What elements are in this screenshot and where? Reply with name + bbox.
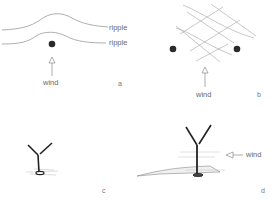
panel-c-drawing: [26, 143, 58, 175]
wind-arrow-head: [226, 152, 233, 158]
wind-arrow-head: [202, 67, 208, 73]
wind-arrow-head: [49, 57, 55, 63]
stem-right-branch: [40, 143, 52, 154]
ripple-label-upper: ripple: [109, 24, 127, 32]
obstacle-dot-left: [170, 46, 177, 53]
panel-b-drawing: [170, 4, 256, 87]
panel-a-drawing: [2, 14, 108, 76]
ripple-line: [176, 26, 220, 62]
ripple-line: [180, 7, 223, 34]
panel-label-d: d: [261, 187, 265, 194]
wind-label-a: wind: [43, 79, 58, 87]
stem-left-branch: [186, 127, 197, 145]
panel-d-drawing: [137, 125, 243, 177]
stem-right-branch: [199, 125, 211, 144]
panel-label-c: c: [102, 187, 106, 194]
wind-label-d: wind: [246, 151, 261, 159]
stem-base: [193, 173, 203, 176]
obstacle-dot-right: [234, 46, 241, 53]
panel-label-b: b: [257, 91, 261, 98]
stem-trunk: [38, 155, 39, 172]
panel-label-a: a: [118, 80, 122, 87]
ripple-line: [211, 4, 256, 36]
stem-left-branch: [28, 145, 38, 155]
ripple-line: [190, 20, 240, 51]
sand-mound: [137, 166, 220, 176]
obstacle-dot: [49, 41, 56, 48]
ripple-line-upper: [2, 14, 108, 30]
stem-base: [36, 171, 44, 174]
ripple-label-lower: ripple: [109, 39, 127, 47]
ripple-line: [176, 28, 232, 55]
diagram-canvas: [0, 0, 277, 200]
wind-label-b: wind: [196, 91, 211, 99]
